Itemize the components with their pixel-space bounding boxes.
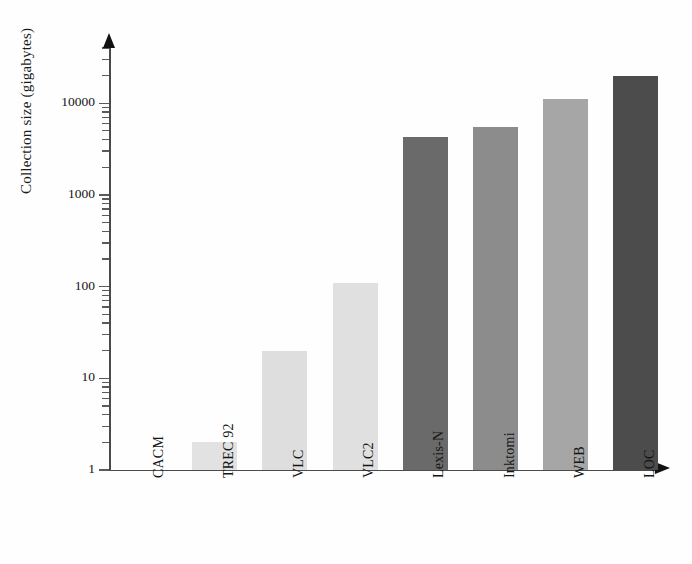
y-tick-label: 1000 [68,186,95,202]
x-label-inktomi: Inktomi [502,432,518,478]
y-tick-label: 10000 [61,94,95,110]
chart-figure: Collection size (gigabytes) 110100100010… [0,0,692,564]
bar-web [543,99,588,470]
x-label-vlc2: VLC2 [361,442,377,478]
y-tick-label: 100 [75,278,95,294]
y-axis-tick-labels: 110100100010000 [0,0,95,564]
y-tick-label: 10 [82,369,96,385]
x-axis-category-labels: CACMTREC 92VLCVLC2Lexis-NInktomiWEBLOC [110,470,666,564]
x-label-loc: LOC [642,449,658,478]
bar-loc [613,76,658,470]
x-label-trec-92: TREC 92 [221,423,237,478]
x-label-web: WEB [572,446,588,478]
x-label-lexis-n: Lexis-N [431,431,447,478]
bar-lexis-n [403,137,448,470]
x-label-cacm: CACM [151,436,167,478]
bar-inktomi [473,127,518,470]
y-tick-label: 1 [88,461,95,477]
bars-container [110,36,666,470]
x-label-vlc: VLC [291,449,307,478]
